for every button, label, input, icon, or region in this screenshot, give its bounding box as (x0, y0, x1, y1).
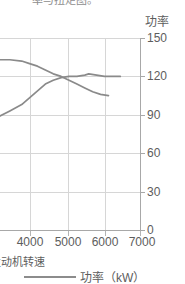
y-tick-label-60: 60 (147, 147, 160, 159)
legend-label-power: 功率（kW） (80, 268, 145, 284)
torque-curve (0, 60, 108, 96)
legend-line-power (24, 276, 76, 278)
page-title: 率与扭矩图。 (32, 0, 98, 7)
y-tick-label-30: 30 (147, 186, 160, 198)
x-tick-label-7000: 7000 (129, 236, 156, 248)
y-tick-label-150: 150 (147, 32, 167, 44)
y-tick-label-120: 120 (147, 70, 167, 82)
legend-left-crop: m) (0, 267, 22, 284)
y-axis-caption: 功率 (145, 12, 169, 29)
y-tick-label-90: 90 (147, 109, 160, 121)
legend: m) 功率（kW） (0, 267, 185, 284)
x-axis-caption: 发动机转速 (0, 253, 45, 267)
x-tick-label-4000: 4000 (17, 236, 44, 248)
data-curves (0, 38, 145, 231)
x-axis-caption-crop: 发动机转速 (0, 252, 120, 267)
x-tick-label-5000: 5000 (55, 236, 82, 248)
x-tick-label-6000: 6000 (92, 236, 119, 248)
chart-figure: 率与扭矩图。 功率 150 120 90 60 30 0 4000 5000 6… (0, 0, 185, 284)
